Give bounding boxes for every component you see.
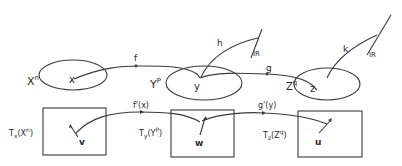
map-h-curve (201, 38, 258, 77)
derivative-g-arrow-icon (262, 111, 266, 115)
derivative-g-curve (202, 113, 327, 124)
manifold-y: YP y (149, 66, 242, 100)
derivative-f-curve (76, 112, 200, 133)
real-line-k-label: IR (369, 51, 376, 59)
map-h: h IR (201, 29, 262, 77)
derivative-f-arrow-icon (140, 110, 144, 114)
point-y-label: y (194, 81, 200, 92)
manifold-z-ellipse (294, 68, 360, 100)
map-g-label: g (266, 63, 272, 73)
map-f: f (74, 53, 200, 79)
manifold-x-label: Xn (27, 74, 39, 88)
manifold-x: Xn x (27, 60, 107, 90)
tangent-space-x-label: Tx(Xn) (8, 126, 33, 139)
point-x-label: x (69, 74, 75, 85)
map-f-label: f (134, 53, 138, 63)
tangent-space-z-label: Tz(Zq) (262, 128, 287, 141)
map-f-curve (74, 66, 200, 79)
derivative-f: f'(x) (76, 101, 200, 133)
manifold-y-label: YP (149, 77, 161, 91)
tangent-space-y: Ty(YP) w (138, 110, 234, 157)
manifold-z-label: Zq (286, 79, 297, 92)
map-f-arrow-icon (135, 65, 138, 68)
manifold-z: Zq z (286, 68, 360, 100)
vector-v-label: v (79, 137, 85, 147)
diagram-canvas: Xn x YP y Zq z f g h IR k IR (0, 0, 402, 166)
tangent-space-z: Tz(Zq) u (262, 111, 362, 157)
derivative-f-label: f'(x) (133, 101, 149, 110)
map-k-label: k (343, 44, 349, 54)
vector-w-label: w (195, 138, 203, 148)
tangent-space-x: Tx(Xn) v (8, 108, 106, 155)
map-h-label: h (217, 38, 223, 48)
real-line-k (367, 15, 391, 55)
derivative-g-label: g'(y) (258, 101, 276, 110)
vector-u-label: u (315, 137, 321, 147)
derivative-g: g'(y) (202, 101, 327, 124)
real-line-h-label: IR (253, 50, 260, 58)
tangent-space-y-label: Ty(YP) (138, 126, 162, 140)
tangent-space-y-box (171, 110, 234, 157)
map-g-arrow-icon (266, 73, 269, 76)
